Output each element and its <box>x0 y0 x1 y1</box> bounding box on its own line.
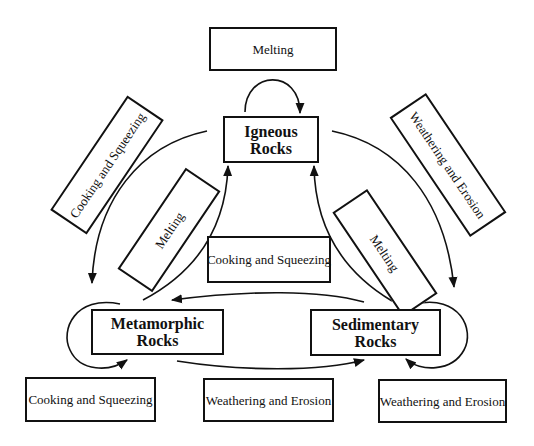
process-box-bottom-right-weathering: Weathering and Erosion <box>378 379 507 423</box>
node-label-line2: Rocks <box>250 140 292 157</box>
node-label-line1: Metamorphic <box>111 315 204 332</box>
sedimentary-to-metamorphic-arrow <box>172 293 364 302</box>
process-label: Cooking and Squeezing <box>207 252 331 267</box>
process-box-bottom-center-weathering: Weathering and Erosion <box>203 378 334 422</box>
process-box-top-melting: Melting <box>209 27 337 71</box>
node-igneous-rocks: Igneous Rocks <box>223 116 319 163</box>
process-label: Melting <box>367 232 402 275</box>
process-box-center-cooking: Cooking and Squeezing <box>207 236 331 283</box>
node-label-line1: Igneous <box>244 123 297 140</box>
node-label-line2: Rocks <box>137 332 179 349</box>
process-box-bottom-left-cooking: Cooking and Squeezing <box>25 377 156 422</box>
node-metamorphic-rocks: Metamorphic Rocks <box>91 309 224 355</box>
node-label-line2: Rocks <box>355 333 397 350</box>
process-label: Cooking and Squeezing <box>28 392 152 407</box>
process-label: Weathering and Erosion <box>380 394 505 409</box>
node-sedimentary-rocks: Sedimentary Rocks <box>310 309 441 356</box>
metamorphic-to-sedimentary-arrow <box>177 360 364 369</box>
process-label: Melting <box>151 209 186 252</box>
node-label-line1: Sedimentary <box>332 316 419 333</box>
process-label: Melting <box>252 42 293 57</box>
rock-cycle-diagram: Melting Igneous Rocks Cooking and Squeez… <box>0 0 534 446</box>
process-label: Weathering and Erosion <box>206 393 331 408</box>
igneous-self-loop-arrow <box>245 80 300 113</box>
